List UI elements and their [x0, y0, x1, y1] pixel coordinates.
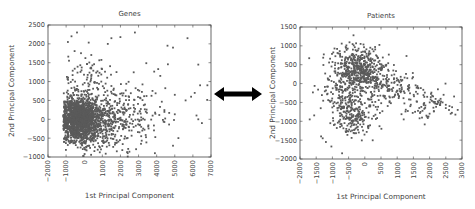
plot-frame — [300, 27, 462, 159]
y-tick-label: 1000 — [280, 42, 297, 50]
y-tick-label: 0 — [293, 80, 297, 88]
y-tick-label: −1500 — [275, 137, 297, 145]
patients-y-axis-label: 2nd Principal Component — [268, 23, 278, 163]
patients-x-axis-label: 1st Principal Component — [300, 192, 462, 201]
x-tick-label: 1500 — [410, 162, 418, 179]
x-tick-label: 2500 — [442, 162, 450, 179]
x-tick-label: 3000 — [458, 162, 466, 179]
y-tick-label: −2000 — [275, 155, 297, 163]
y-tick-label: 500 — [284, 61, 297, 69]
x-tick-label: −1500 — [313, 162, 321, 184]
y-tick-label: −1000 — [275, 118, 297, 126]
x-tick-label: −1000 — [329, 162, 337, 184]
x-tick-label: 1000 — [394, 162, 402, 179]
y-tick-label: 1500 — [280, 23, 297, 31]
x-tick-label: −2000 — [296, 162, 304, 184]
patients-chart: Patients −2000−1500−1000−500050010001500… — [0, 0, 475, 209]
y-tick-label: −500 — [279, 99, 297, 107]
x-tick-label: 500 — [377, 162, 385, 175]
x-tick-label: −500 — [345, 162, 353, 180]
data-points — [308, 34, 458, 154]
x-tick-label: 0 — [361, 162, 369, 166]
x-tick-label: 2000 — [426, 162, 434, 179]
patients-scatter-plot: −2000−1500−1000−500050010001500−2000−150… — [0, 0, 475, 209]
